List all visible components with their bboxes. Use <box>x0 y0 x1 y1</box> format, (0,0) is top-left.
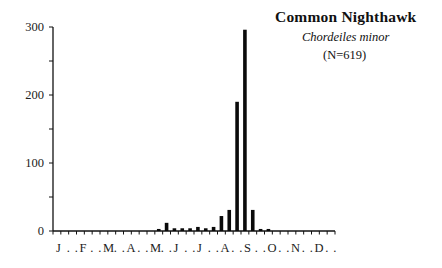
bar <box>259 229 263 231</box>
bar <box>180 228 184 231</box>
x-dot-separator: . <box>192 241 195 255</box>
bar <box>212 227 216 231</box>
x-month-label: M <box>103 241 114 255</box>
bar <box>157 229 161 231</box>
bar <box>173 228 177 231</box>
bar <box>220 216 224 231</box>
x-dot-separator: . <box>145 241 148 255</box>
x-dot-separator: . <box>67 241 70 255</box>
x-dot-separator: . <box>184 241 187 255</box>
bar <box>227 210 231 231</box>
bar <box>251 210 255 231</box>
x-dot-separator: . <box>75 241 78 255</box>
x-month-label: S <box>244 241 251 255</box>
x-dot-separator: . <box>208 241 211 255</box>
x-dot-separator: . <box>122 241 125 255</box>
y-tick-label: 200 <box>25 88 44 102</box>
x-month-label: N <box>291 241 300 255</box>
bar <box>235 102 239 231</box>
bar <box>243 30 247 231</box>
bar-chart: 0100200300J..F..M..A..M..J..J..A..S..O..… <box>0 0 442 268</box>
x-dot-separator: . <box>161 241 164 255</box>
x-dot-separator: . <box>231 241 234 255</box>
x-month-label: M <box>150 241 161 255</box>
x-dot-separator: . <box>216 241 219 255</box>
y-tick-label: 300 <box>25 20 44 34</box>
x-month-label: J <box>56 241 61 255</box>
x-dot-separator: . <box>263 241 266 255</box>
x-dot-separator: . <box>114 241 117 255</box>
x-dot-separator: . <box>169 241 172 255</box>
bar <box>204 228 208 231</box>
x-month-label: O <box>268 241 277 255</box>
x-dot-separator: . <box>310 241 313 255</box>
x-dot-separator: . <box>137 241 140 255</box>
x-dot-separator: . <box>333 241 336 255</box>
x-dot-separator: . <box>98 241 101 255</box>
y-tick-label: 0 <box>38 224 44 238</box>
x-dot-separator: . <box>325 241 328 255</box>
x-dot-separator: . <box>302 241 305 255</box>
x-month-label: J <box>174 241 179 255</box>
x-month-label: F <box>80 241 87 255</box>
x-month-label: D <box>315 241 324 255</box>
bar <box>165 223 169 231</box>
x-month-label: A <box>127 241 136 255</box>
x-dot-separator: . <box>255 241 258 255</box>
x-dot-separator: . <box>278 241 281 255</box>
y-tick-label: 100 <box>25 156 44 170</box>
x-dot-separator: . <box>286 241 289 255</box>
x-dot-separator: . <box>90 241 93 255</box>
bar <box>188 228 192 231</box>
x-month-label: J <box>197 241 202 255</box>
x-month-label: A <box>221 241 230 255</box>
bar <box>196 227 200 231</box>
bar <box>267 229 271 231</box>
x-dot-separator: . <box>239 241 242 255</box>
